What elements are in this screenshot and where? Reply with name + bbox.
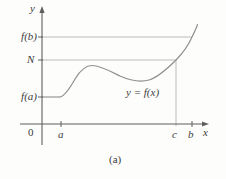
x-axis-label: x: [203, 127, 208, 138]
figure-caption: (a): [109, 154, 121, 165]
b-value-label: b: [188, 129, 194, 140]
ivt-function-diagram: y f(b) N f(a) 0 a c b x y = f(x) (a): [0, 0, 226, 179]
a-value-label: a: [58, 129, 64, 140]
fb-value-label: f(b): [14, 31, 37, 42]
c-value-label: c: [172, 129, 177, 140]
y-axis-label: y: [30, 3, 35, 14]
curve-equation-label: y = f(x): [126, 87, 159, 98]
n-value-label: N: [27, 54, 34, 65]
fa-value-label: f(a): [14, 91, 37, 102]
origin-label: 0: [28, 127, 34, 138]
y-axis-arrowhead-icon: [39, 6, 44, 13]
